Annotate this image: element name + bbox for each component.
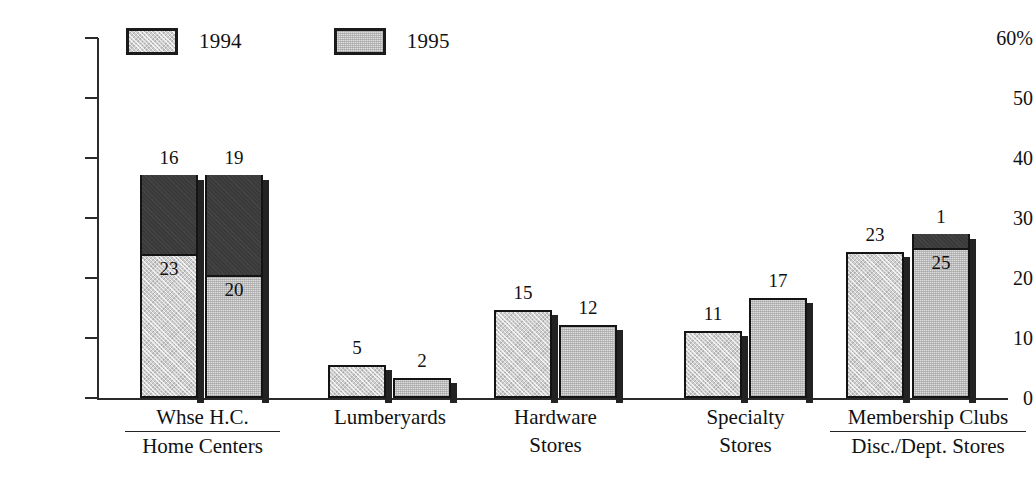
- bar-value-membership-1995-lower: 25: [914, 253, 968, 272]
- category-membership-clubs: Membership Clubs Disc./Dept. Stores: [830, 405, 1026, 459]
- bar-shadow-membership-1994: [903, 257, 910, 403]
- category-whse-line2: Home Centers: [125, 432, 280, 458]
- bar-shadow-membership-1995: [969, 239, 976, 403]
- bar-membership-1995[interactable]: 25: [912, 234, 970, 398]
- category-specialty-stores: Specialty Stores: [668, 405, 823, 458]
- bar-membership-1994[interactable]: [846, 252, 904, 398]
- category-hardware-stores: Hardware Stores: [478, 405, 633, 458]
- bar-value-membership-1994-top: 23: [846, 225, 904, 244]
- category-whse-line1: Whse H.C.: [125, 405, 280, 432]
- category-membership-line2: Disc./Dept. Stores: [830, 432, 1026, 458]
- category-specialty-line1: Specialty: [668, 405, 823, 431]
- category-hardware-line1: Hardware: [478, 405, 633, 431]
- category-membership-line1: Membership Clubs: [830, 405, 1026, 432]
- bar-group-membership-clubs: 23 25 1: [0, 0, 1033, 400]
- category-specialty-line2: Stores: [668, 431, 823, 457]
- bar-segment-dark-membership-1995: [914, 234, 968, 250]
- bar-chart: 1994 1995 60% 50 40 30 20 10 0: [0, 0, 1033, 484]
- category-lumberyards: Lumberyards: [310, 405, 470, 431]
- category-whse-home-centers: Whse H.C. Home Centers: [125, 405, 280, 459]
- category-hardware-line2: Stores: [478, 431, 633, 457]
- plot-area: 60% 50 40 30 20 10 0 23 16 20 19: [0, 0, 1033, 484]
- bar-value-membership-1995-top: 1: [912, 207, 970, 226]
- category-lumberyards-line1: Lumberyards: [310, 405, 470, 431]
